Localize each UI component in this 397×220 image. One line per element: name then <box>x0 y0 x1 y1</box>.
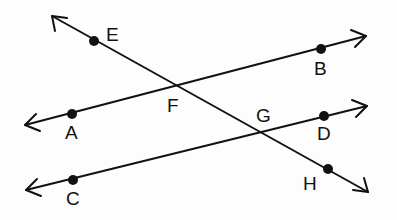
label-G: G <box>256 106 271 125</box>
label-F: F <box>167 96 179 115</box>
label-A: A <box>65 123 78 142</box>
label-D: D <box>317 124 331 143</box>
label-B: B <box>314 59 327 78</box>
label-C: C <box>66 189 80 208</box>
point-H-dot <box>323 164 333 174</box>
point-B-dot <box>316 44 326 54</box>
point-A-dot <box>67 109 77 119</box>
diagram-canvas <box>0 0 397 220</box>
geometry-diagram: A B C D E F G H <box>0 0 397 220</box>
point-C-dot <box>68 175 78 185</box>
point-E-dot <box>89 36 99 46</box>
label-E: E <box>106 25 119 44</box>
line-EH <box>52 16 368 192</box>
label-H: H <box>303 174 317 193</box>
point-D-dot <box>319 111 329 121</box>
